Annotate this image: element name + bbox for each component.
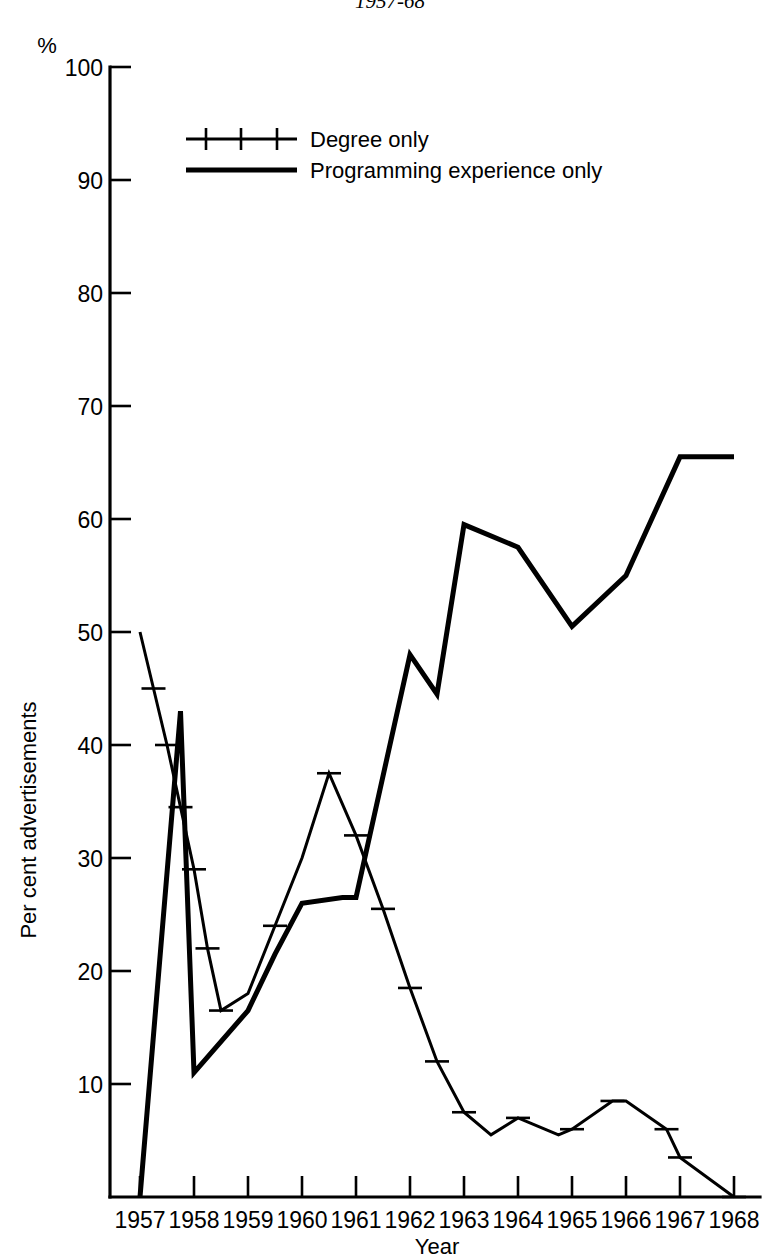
- x-tick-label: 1966: [600, 1207, 651, 1233]
- y-tick-label: 50: [77, 620, 103, 646]
- x-tick-label: 1960: [276, 1207, 327, 1233]
- legend-label-programming-experience-only: Programming experience only: [310, 158, 602, 183]
- x-tick-label: 1964: [492, 1207, 543, 1233]
- plot-area: [140, 457, 746, 1197]
- legend-label-degree-only: Degree only: [310, 127, 429, 152]
- x-axis-tick-labels: 1957 1958 1959 1960 1961 1962 1963 1964 …: [114, 1207, 759, 1233]
- y-tick-label: 10: [77, 1072, 103, 1098]
- chart-title: 1957-68: [355, 0, 425, 13]
- y-axis-ticks: [110, 67, 131, 1084]
- legend-entry-programming-experience-only: Programming experience only: [186, 158, 602, 183]
- y-axis-unit-symbol: %: [37, 33, 57, 58]
- x-axis-ticks: [140, 1176, 734, 1197]
- y-axis-title: Per cent advertisements: [16, 701, 41, 938]
- x-axis-title: Year: [415, 1234, 459, 1259]
- legend: Degree only Programming experience only: [186, 127, 602, 183]
- y-tick-label: 60: [77, 507, 103, 533]
- x-tick-label: 1962: [384, 1207, 435, 1233]
- x-tick-label: 1967: [654, 1207, 705, 1233]
- series-line-programming-experience-only: [140, 457, 734, 1197]
- series-line-degree-only: [140, 632, 734, 1197]
- y-tick-label: 100: [65, 55, 103, 81]
- y-tick-label: 90: [77, 168, 103, 194]
- y-tick-label: 30: [77, 846, 103, 872]
- x-tick-label: 1963: [438, 1207, 489, 1233]
- legend-entry-degree-only: Degree only: [186, 127, 429, 152]
- y-tick-label: 70: [77, 394, 103, 420]
- y-tick-label: 40: [77, 733, 103, 759]
- x-tick-label: 1958: [168, 1207, 219, 1233]
- x-tick-label: 1959: [222, 1207, 273, 1233]
- y-tick-label: 80: [77, 281, 103, 307]
- x-tick-label: 1961: [330, 1207, 381, 1233]
- y-tick-label: 20: [77, 959, 103, 985]
- line-chart: 1957-68 % 100 90 80 70 60 50 4: [0, 0, 779, 1259]
- x-tick-label: 1968: [708, 1207, 759, 1233]
- x-tick-label: 1965: [546, 1207, 597, 1233]
- x-tick-label: 1957: [114, 1207, 165, 1233]
- chart-figure: 1957-68 % 100 90 80 70 60 50 4: [0, 0, 779, 1259]
- y-axis-tick-labels: 100 90 80 70 60 50 40 30 20 10: [65, 55, 103, 1098]
